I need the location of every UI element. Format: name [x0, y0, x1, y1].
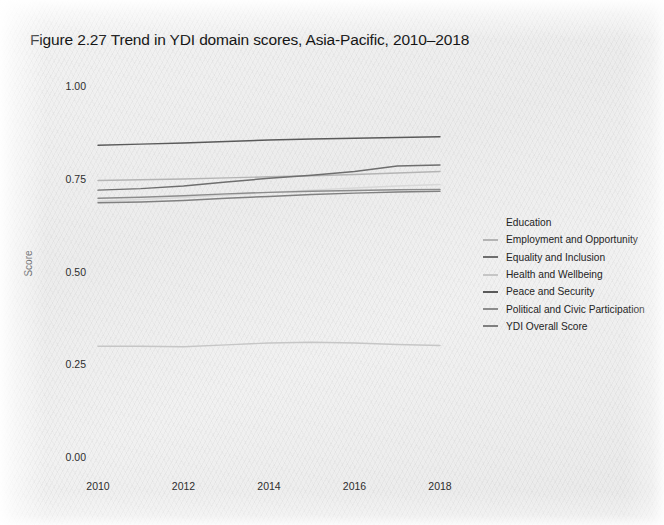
legend-item[interactable]: Health and Wellbeing [483, 266, 658, 283]
legend-item[interactable]: YDI Overall Score [483, 318, 658, 335]
legend-item-label: Equality and Inclusion [506, 252, 605, 263]
y-tick-label: 0.25 [42, 358, 86, 370]
legend-item[interactable]: Employment and Opportunity [483, 231, 658, 248]
series-line [98, 342, 440, 346]
legend-line-swatch-icon [483, 325, 498, 327]
y-tick-label: 0.00 [42, 451, 86, 463]
legend-item-label: Education [506, 217, 551, 228]
legend-item-label: YDI Overall Score [506, 321, 588, 332]
legend-item-label: Political and Civic Participation [506, 304, 645, 315]
x-tick-label: 2016 [325, 480, 385, 492]
legend-item[interactable]: Political and Civic Participation [483, 300, 658, 317]
legend-line-swatch-icon [483, 291, 498, 293]
x-tick-label: 2018 [410, 480, 470, 492]
y-tick-label: 0.50 [42, 266, 86, 278]
legend-line-swatch-icon [483, 222, 498, 224]
series-line [98, 172, 440, 181]
y-tick-label: 0.75 [42, 173, 86, 185]
figure-container: Figure 2.27 Trend in YDI domain scores, … [0, 0, 664, 525]
legend-item[interactable]: Education [483, 214, 658, 231]
figure-title: Figure 2.27 Trend in YDI domain scores, … [30, 31, 469, 49]
legend-item[interactable]: Peace and Security [483, 283, 658, 300]
legend-line-swatch-icon [483, 256, 498, 258]
legend-item-label: Peace and Security [506, 286, 594, 297]
x-tick-label: 2014 [239, 480, 299, 492]
chart-legend: EducationEmployment and OpportunityEqual… [483, 214, 658, 335]
legend-line-swatch-icon [483, 274, 498, 276]
legend-item-label: Health and Wellbeing [506, 269, 603, 280]
legend-line-swatch-icon [483, 308, 498, 310]
legend-item-label: Employment and Opportunity [506, 234, 638, 245]
legend-line-swatch-icon [483, 239, 498, 241]
x-tick-label: 2012 [154, 480, 214, 492]
y-tick-label: 1.00 [42, 80, 86, 92]
x-tick-label: 2010 [68, 480, 128, 492]
series-line [98, 137, 440, 146]
y-axis-label: Score [23, 234, 34, 294]
legend-item[interactable]: Equality and Inclusion [483, 249, 658, 266]
